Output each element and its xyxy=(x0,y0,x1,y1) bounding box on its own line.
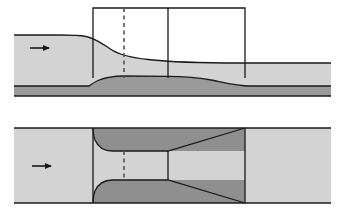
channel-bed-profile xyxy=(14,86,331,96)
contraction-wall-lower-plan xyxy=(93,180,245,203)
figure-canvas xyxy=(0,0,340,219)
panel-plan-view xyxy=(14,128,331,203)
venturi-flume-figure: Flow through a venturi flume Longitudina… xyxy=(0,0,340,219)
contraction-wall-upper-plan xyxy=(93,128,245,151)
